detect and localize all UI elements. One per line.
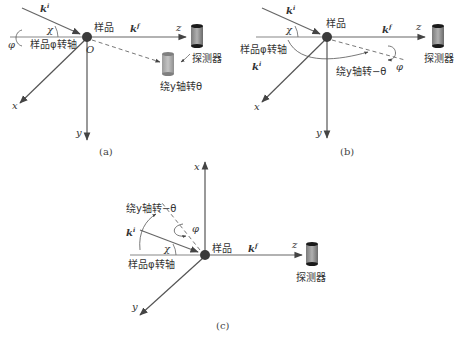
- sample-label: 样品: [212, 242, 232, 254]
- detector: [306, 242, 318, 266]
- phi-axis-label: 样品φ转轴: [240, 43, 287, 55]
- rotated-detector: [162, 52, 174, 76]
- phi-label: φ: [396, 61, 403, 72]
- chi-arc: [55, 26, 58, 37]
- chi-label: χ: [163, 243, 171, 254]
- y-axis-label: y: [131, 301, 138, 312]
- x-axis-label: x: [12, 100, 18, 111]
- scattered-wave-label: kf: [130, 22, 141, 34]
- detector: [432, 24, 444, 48]
- incident-wave-label: ki: [126, 226, 136, 238]
- detector-move-arrow: [181, 54, 190, 62]
- incident-wave-label-2: ki: [252, 60, 262, 72]
- detector-label: 探测器: [424, 52, 454, 64]
- scattered-wave-label: kf: [382, 23, 393, 35]
- rotated-beam: [92, 40, 160, 62]
- rotation-arc: [288, 40, 368, 59]
- phi-axis-label: 样品φ转轴: [30, 38, 77, 50]
- rotation-label: 绕y轴转−θ: [126, 202, 176, 214]
- y-axis-label: y: [315, 127, 322, 138]
- detector-label: 探测器: [192, 52, 222, 64]
- z-axis-label: z: [415, 21, 422, 32]
- y-axis-label: y: [75, 127, 82, 138]
- caption-c: (c): [216, 320, 230, 331]
- phi-rotation-arrow: [388, 46, 396, 60]
- x-axis-label: x: [194, 161, 200, 172]
- z-axis-label: z: [291, 239, 298, 250]
- z-axis-label: z: [175, 22, 182, 33]
- chi-label: χ: [46, 24, 54, 35]
- panel-a: ki χ φ 样品φ转轴 kf z y x 样品 O 探测器: [8, 2, 222, 157]
- sample-dot: [322, 32, 332, 42]
- chi-label: χ: [285, 24, 293, 35]
- panel-b: ki χ 样品φ转轴 ki kf z y x φ 样品 探测器 绕y轴转−θ (…: [240, 4, 454, 157]
- scattered-wave-label: kf: [248, 242, 259, 254]
- rotation-label: 绕y轴转θ: [160, 80, 202, 92]
- sample-label: 样品: [94, 21, 114, 33]
- panel-c: x 样品φ转轴 ki χ 绕y轴转−θ φ y kf z 样品 探测器 (c): [126, 161, 326, 331]
- phi-label: φ: [192, 223, 199, 234]
- incident-wave-label: ki: [40, 2, 50, 14]
- sample-label: 样品: [326, 17, 346, 29]
- chi-arc: [295, 26, 298, 37]
- detector-label: 探测器: [296, 271, 326, 283]
- x-axis-label: x: [254, 101, 260, 112]
- sample-dot: [82, 32, 92, 42]
- diagram-canvas: ki χ φ 样品φ转轴 kf z y x 样品 O 探测器: [0, 0, 457, 348]
- sample-dot: [200, 250, 210, 260]
- chi-arc: [173, 244, 176, 255]
- caption-b: (b): [340, 146, 354, 157]
- rotation-label: 绕y轴转−θ: [336, 65, 386, 77]
- phi-label: φ: [8, 39, 15, 50]
- rotation-arc: [140, 214, 156, 250]
- detector: [191, 24, 203, 48]
- phi-axis-label: 样品φ转轴: [128, 258, 175, 270]
- incident-wave-label: ki: [286, 4, 296, 16]
- caption-a: (a): [99, 146, 113, 157]
- origin-label: O: [86, 44, 94, 55]
- phi-rotation-arrow: [16, 30, 22, 46]
